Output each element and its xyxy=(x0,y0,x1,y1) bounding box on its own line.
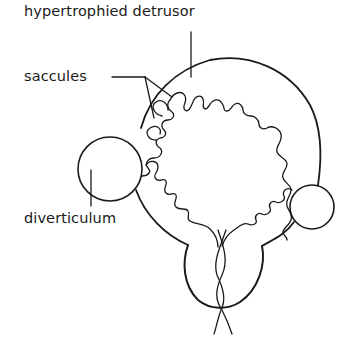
label-diverticulum: diverticulum xyxy=(24,211,116,226)
label-hypertrophied-detrusor: hypertrophied detrusor xyxy=(24,4,195,19)
urethra-line-right xyxy=(214,230,226,334)
mucosa-lining-lower-left xyxy=(146,161,218,247)
bladder-wall xyxy=(141,58,320,185)
bladder-wall-lower-right xyxy=(262,222,294,246)
bladder-diagram-drawing xyxy=(0,0,357,344)
bladder-diagram: hypertrophied detrusor saccules divertic… xyxy=(0,0,357,344)
diverticulum-left xyxy=(78,137,142,201)
saccule-1 xyxy=(153,101,168,116)
diverticulum-right xyxy=(290,185,334,229)
bladder-wall-lower-left xyxy=(136,190,188,245)
label-saccules: saccules xyxy=(24,69,87,84)
saccule-2 xyxy=(147,126,160,140)
urethra-line-left xyxy=(217,230,232,334)
mucosa-lining-lower-right xyxy=(222,189,292,246)
